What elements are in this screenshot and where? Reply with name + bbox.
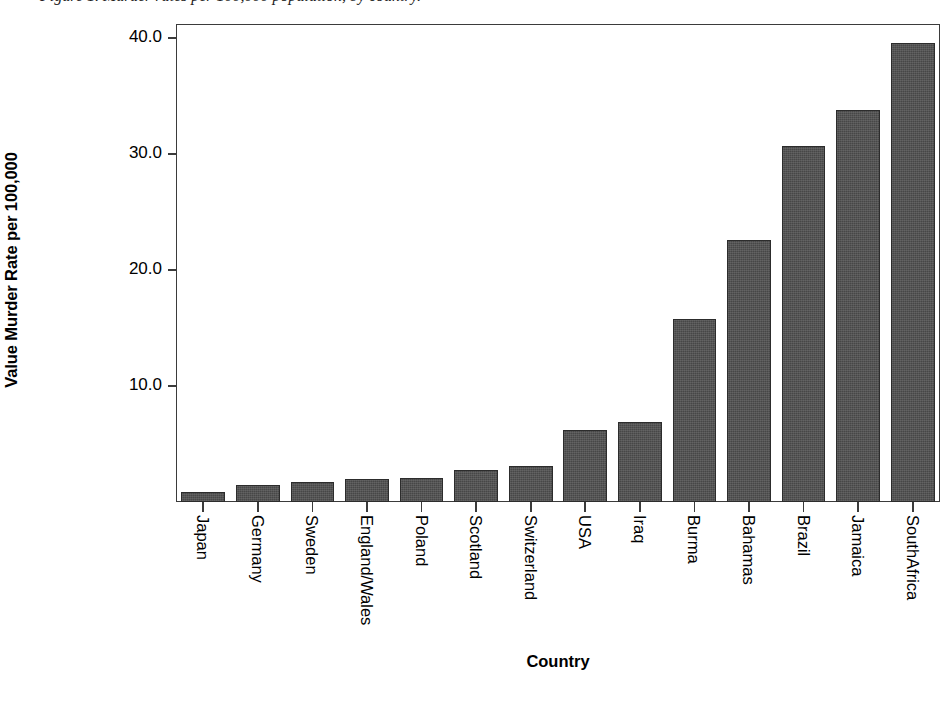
bar (236, 485, 280, 502)
bar (291, 482, 335, 502)
bar-series (176, 24, 940, 502)
figure-container: Figure 1. Murder rates per 100,000 popul… (0, 0, 952, 701)
bar (454, 470, 498, 502)
bar (727, 240, 771, 502)
y-axis-tick-label-text: 40.0 (92, 27, 162, 47)
bar (782, 146, 826, 502)
x-axis-tick-mark (366, 502, 368, 512)
x-axis-tick-mark (584, 502, 586, 512)
x-axis-title: Country (176, 652, 940, 671)
x-axis-tick-mark (639, 502, 641, 512)
x-axis-tick-label-text: Jamaica (850, 515, 867, 576)
bar (400, 478, 444, 502)
x-axis-tick-label-text: USA (577, 515, 594, 549)
figure-caption: Figure 1. Murder rates per 100,000 popul… (40, 0, 421, 5)
x-axis-tick-label-text: Poland (413, 515, 430, 566)
x-axis-tick-label-text: Scotland (468, 515, 485, 579)
x-axis-tick-mark (421, 502, 423, 512)
bar (509, 466, 553, 502)
x-axis-tick-label-text: Sweden (304, 515, 321, 575)
y-axis-tick-label: 10.0 (82, 375, 162, 395)
bar (181, 492, 225, 502)
x-axis-tick-label-text: Brazil (795, 515, 812, 556)
y-axis-tick-label: 20.0 (82, 259, 162, 279)
bar (563, 430, 607, 502)
x-axis-tick-mark (257, 502, 259, 512)
x-axis-tick-label-text: Bahamas (741, 515, 758, 585)
x-axis-tick-mark (748, 502, 750, 512)
y-axis-tick-label-text: 30.0 (92, 143, 162, 163)
bar (618, 422, 662, 502)
x-axis-tick-mark (857, 502, 859, 512)
x-axis-tick-mark (912, 502, 914, 512)
y-axis-tick-label: 40.0 (82, 27, 162, 47)
x-axis-tick-label-text: Japan (195, 515, 212, 560)
bar (891, 43, 935, 502)
bar (673, 319, 717, 502)
x-axis-tick-mark (530, 502, 532, 512)
x-axis-tick-mark (312, 502, 314, 512)
x-axis-tick-label-text: Switzerland (522, 515, 539, 600)
x-axis-tick-label-text: Iraq (631, 515, 648, 543)
x-axis-tick-mark (202, 502, 204, 512)
x-axis-tick-mark (803, 502, 805, 512)
y-axis-title: Value Murder Rate per 100,000 (2, 110, 21, 430)
x-axis-tick-mark (694, 502, 696, 512)
bar (345, 479, 389, 502)
bar (836, 110, 880, 502)
y-axis-tick-label-text: 10.0 (92, 375, 162, 395)
y-axis-tick-label-text: 20.0 (92, 259, 162, 279)
x-axis-tick-mark (475, 502, 477, 512)
figure-caption-clip: Figure 1. Murder rates per 100,000 popul… (0, 0, 952, 14)
x-axis-tick-label-text: SouthAfrica (904, 515, 921, 600)
x-axis-tick-label-text: Germany (249, 515, 266, 583)
x-axis-tick-label-text: Burma (686, 515, 703, 564)
y-axis-tick-label: 30.0 (82, 143, 162, 163)
x-axis-tick-label-text: England/Wales (359, 515, 376, 625)
